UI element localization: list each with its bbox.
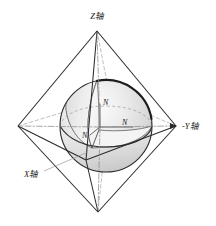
sphere xyxy=(60,80,152,180)
normal-label-top: N xyxy=(102,98,109,107)
axis-label-z: Z轴 xyxy=(90,11,105,21)
normal-label-right: N xyxy=(121,118,128,127)
octahedron-sphere-diagram: Z轴 -Y轴 X轴 N N N xyxy=(0,0,216,226)
axis-label-x: X轴 xyxy=(23,169,39,179)
normal-label-origin: N xyxy=(81,131,88,140)
figure-container: Z轴 -Y轴 X轴 N N N xyxy=(0,0,216,226)
axis-label-y: -Y轴 xyxy=(182,121,200,131)
